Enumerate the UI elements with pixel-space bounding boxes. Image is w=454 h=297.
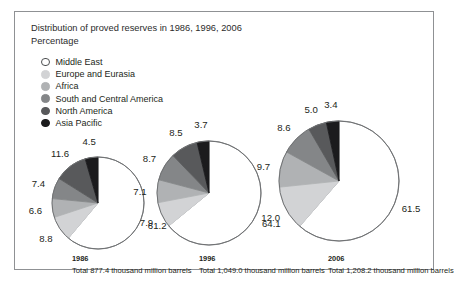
legend-item-asia-pacific: Asia Pacific — [41, 117, 163, 129]
pie-slice-north-america — [173, 142, 209, 193]
pie-slice-africa — [157, 180, 209, 203]
pie-caption-2006: 2006 Total 1,208.2 thousand million barr… — [328, 254, 454, 275]
pie-value-label-north-america: 8.5 — [169, 127, 182, 138]
pie-slice-north-america — [309, 122, 339, 181]
pie-value-label-south-and-central-america: 7.4 — [32, 177, 45, 188]
pie-value-label-north-america: 5.0 — [304, 104, 317, 115]
pie-value-label-south-and-central-america: 8.6 — [277, 122, 290, 133]
legend-item-africa: Africa — [41, 80, 163, 92]
legend-label-middle-east: Middle East — [56, 57, 103, 67]
legend-label-north-america: North America — [56, 106, 113, 116]
pie-caption-total-1986: Total 877.4 thousand million barrels — [72, 266, 191, 275]
pie-caption-total-1996: Total 1,049.0 thousand million barrels — [199, 266, 325, 275]
pie-value-label-africa: 7.1 — [133, 185, 146, 196]
legend-label-south-and-central-america: South and Central America — [56, 94, 164, 104]
pie-outline — [52, 157, 144, 249]
legend-swatch-asia-pacific — [41, 119, 50, 128]
legend-label-europe-and-eurasia: Europe and Eurasia — [56, 69, 136, 79]
pie-slice-asia-pacific — [197, 141, 209, 193]
pie-value-label-asia-pacific: 4.5 — [82, 135, 95, 146]
legend-swatch-middle-east — [41, 58, 50, 67]
pie-outline — [157, 141, 261, 245]
legend-item-north-america: North America — [41, 105, 163, 117]
chart-legend: Middle East Europe and Eurasia Africa So… — [41, 56, 163, 129]
pie-slice-middle-east — [68, 157, 144, 249]
pie-slice-asia-pacific — [85, 157, 98, 203]
pie-slice-middle-east — [169, 141, 261, 245]
pie-value-label-middle-east: 61.5 — [402, 202, 421, 213]
chart-title: Distribution of proved reserves in 1986,… — [31, 22, 242, 47]
pie-outline — [279, 121, 399, 241]
pie-slice-asia-pacific — [326, 121, 339, 181]
pie-slice-south-and-central-america — [286, 129, 339, 181]
pie-caption-year-1996: 1996 — [199, 254, 325, 263]
pie-slice-europe-and-eurasia — [279, 181, 339, 226]
legend-swatch-north-america — [41, 107, 50, 116]
legend-label-africa: Africa — [56, 81, 79, 91]
pie-slices-2006 — [15, 12, 435, 271]
legend-item-south-and-central-america: South and Central America — [41, 93, 163, 105]
pie-value-label-europe-and-eurasia: 8.8 — [39, 233, 52, 244]
pie-slice-middle-east — [300, 121, 399, 241]
pie-value-label-south-and-central-america: 8.7 — [143, 153, 156, 164]
legend-swatch-europe-and-eurasia — [41, 70, 50, 79]
pie-slices-1986 — [15, 12, 435, 271]
legend-label-asia-pacific: Asia Pacific — [56, 118, 103, 128]
pie-slice-africa — [279, 152, 339, 187]
pie-value-label-europe-and-eurasia: 12.0 — [261, 211, 280, 222]
pie-caption-1986: 1986 Total 877.4 thousand million barrel… — [72, 254, 191, 275]
legend-item-europe-and-eurasia: Europe and Eurasia — [41, 68, 163, 80]
legend-item-middle-east: Middle East — [41, 56, 163, 68]
chart-frame: Distribution of proved reserves in 1986,… — [14, 11, 434, 270]
pie-caption-total-2006: Total 1,208.2 thousand million barrels — [328, 266, 454, 275]
pie-slice-south-and-central-america — [159, 156, 209, 193]
pie-caption-year-1986: 1986 — [72, 254, 191, 263]
pie-value-label-europe-and-eurasia: 7.9 — [140, 217, 153, 228]
pie-slices-1996 — [15, 12, 435, 271]
pie-value-label-africa: 9.7 — [257, 160, 270, 171]
pie-slice-north-america — [59, 159, 98, 203]
legend-swatch-africa — [41, 82, 50, 91]
pie-caption-year-2006: 2006 — [328, 254, 454, 263]
pie-slice-africa — [52, 199, 98, 218]
pie-slice-europe-and-eurasia — [54, 203, 98, 238]
legend-swatch-south-and-central-america — [41, 94, 50, 103]
pie-value-label-asia-pacific: 3.7 — [194, 119, 207, 130]
pie-value-label-north-america: 11.6 — [51, 147, 69, 158]
pie-caption-1996: 1996 Total 1,049.0 thousand million barr… — [199, 254, 325, 275]
pie-value-label-asia-pacific: 3.4 — [324, 99, 337, 110]
pie-slice-south-and-central-america — [52, 179, 98, 203]
pie-value-label-africa: 6.6 — [29, 205, 42, 216]
